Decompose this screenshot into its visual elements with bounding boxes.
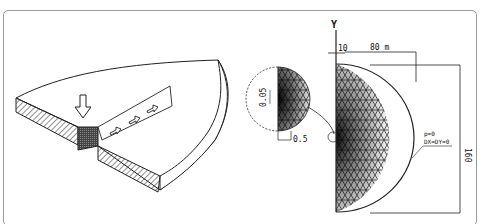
inset-horizontal-dimension: 0.5 [293,135,308,144]
diagram-canvas: Y 10 80 m 160 p=0 DX=DY=0 [0,0,482,224]
mesh-detail-inset: 0.05 0.5 [246,67,338,144]
y-axis-symbol: Y [331,19,337,30]
height-dimension: 160 [463,148,472,163]
inset-vertical-dimension: 0.05 [259,88,268,107]
fem-mesh: Y 10 80 m 160 p=0 DX=DY=0 [246,19,472,213]
boundary-condition-p: p=0 [424,130,435,138]
boundary-condition-dx: DX=DY=0 [424,138,450,145]
slab-illustration [16,60,228,192]
radius-dimension-label: 80 m [370,43,389,52]
